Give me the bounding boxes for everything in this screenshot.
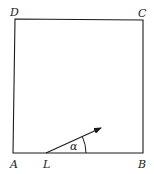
label-D: D — [9, 6, 19, 19]
angle-arc — [83, 137, 87, 153]
square-diagram: D C A L B α — [0, 0, 154, 174]
label-A: A — [9, 158, 18, 171]
label-L: L — [42, 158, 50, 171]
label-alpha: α — [70, 140, 78, 153]
square-ABCD — [13, 19, 143, 153]
label-B: B — [137, 158, 146, 171]
label-C: C — [138, 7, 147, 20]
